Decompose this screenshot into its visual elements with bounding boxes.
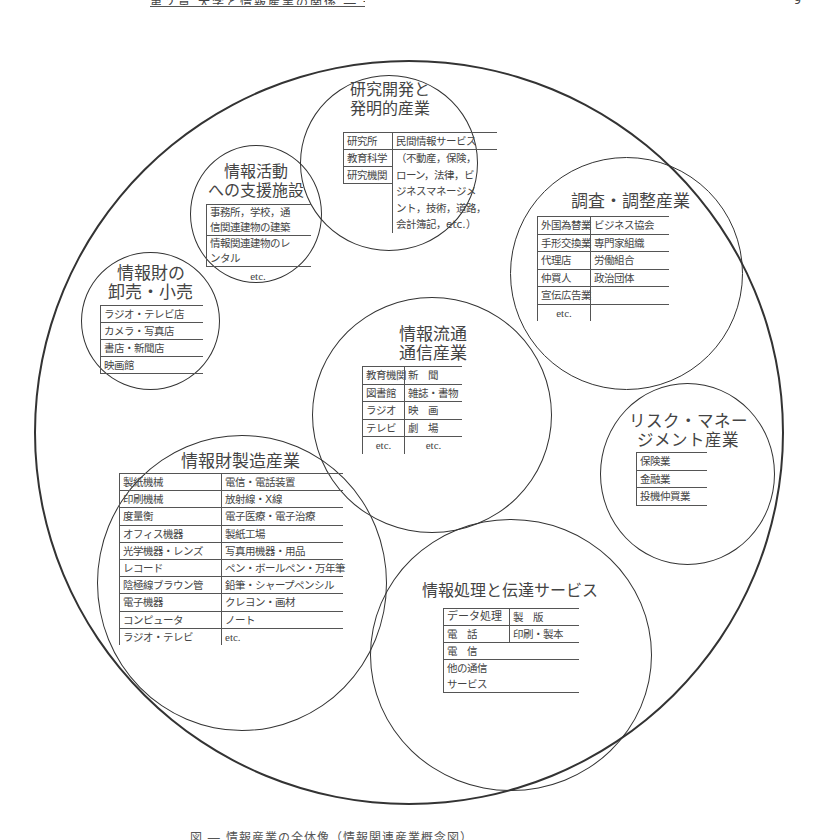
survey-cell bbox=[590, 287, 669, 304]
distribution-cell: テレビ bbox=[362, 420, 404, 437]
distribution-cell: ラジオ bbox=[362, 402, 404, 419]
support-title-line2: への支援施設 bbox=[195, 181, 317, 200]
research-title-line2: 発明的産業 bbox=[330, 99, 450, 118]
distribution-cell: 新 聞 bbox=[404, 367, 462, 384]
retail-cell: ラジオ・テレビ店 bbox=[100, 306, 203, 322]
survey-title: 調査・調整産業 bbox=[540, 192, 720, 211]
manufacturing-cell: クレヨン・画材 bbox=[221, 594, 333, 610]
research-left-cell: 研究所 bbox=[343, 133, 392, 149]
risk-cell: 保険業 bbox=[636, 453, 707, 470]
survey-cell: 外国為替業 bbox=[537, 217, 590, 234]
survey-cell: 政治団体 bbox=[590, 270, 669, 287]
manufacturing-table: 製紙機械電信・電話装置 印刷機械放射線・X線 度量衡電子医療・電子治療 オフィス… bbox=[119, 473, 343, 645]
manufacturing-cell: レコード bbox=[119, 560, 221, 576]
manufacturing-cell: オフィス機器 bbox=[119, 526, 221, 542]
support-title-line1: 情報活動 bbox=[195, 162, 317, 181]
manufacturing-cell: 印刷機械 bbox=[119, 491, 221, 507]
processing-cell: 電 話 bbox=[443, 626, 509, 642]
processing-cell: 印刷・製本 bbox=[509, 626, 578, 642]
research-right-line: （不動産，保険， bbox=[396, 150, 497, 167]
page-number: 9 bbox=[794, 0, 801, 7]
distribution-etc: etc. bbox=[362, 437, 404, 454]
manufacturing-cell: ペン・ボールペン・万年筆 bbox=[221, 560, 343, 576]
manufacturing-cell: 鉛筆・シャープペンシル bbox=[221, 577, 343, 593]
research-table-left: 研究所 教育科学 研究機関 bbox=[343, 132, 392, 184]
figure-caption: 図 ― 情報産業の全体像（情報関連産業概念図） bbox=[190, 828, 650, 840]
research-table-right: 民間情報サービス （不動産，保険， ローン，法律，ビ ジネスマネージメ ント，技… bbox=[392, 132, 497, 233]
survey-cell: 宣伝広告業 bbox=[537, 287, 590, 304]
manufacturing-cell: 光学機器・レンズ bbox=[119, 543, 221, 559]
research-right-line: ジネスマネージメ bbox=[396, 183, 497, 200]
risk-table: 保険業 金融業 投機仲買業 bbox=[636, 452, 707, 506]
research-left-cell: 研究機関 bbox=[343, 167, 392, 183]
research-title-line1: 研究開発と bbox=[330, 80, 450, 99]
distribution-title-line2: 通信産業 bbox=[370, 344, 495, 363]
survey-cell: 労働組合 bbox=[590, 252, 669, 269]
header-caption: 第２章 大学と情報産業の関係 ― 一覧 bbox=[150, 0, 365, 5]
survey-cell bbox=[590, 305, 669, 322]
risk-title: リスク・マネー ジメント産業 bbox=[613, 412, 763, 450]
survey-cell: 代理店 bbox=[537, 252, 590, 269]
manufacturing-cell: ノート bbox=[221, 612, 326, 628]
retail-cell: 書店・新聞店 bbox=[100, 340, 198, 356]
survey-cell: 専門家組織 bbox=[590, 235, 669, 252]
processing-cell: データ処理 bbox=[443, 609, 509, 625]
processing-cell: 製 版 bbox=[509, 609, 574, 625]
distribution-cell: 劇 場 bbox=[404, 420, 462, 437]
manufacturing-title: 情報財製造産業 bbox=[160, 452, 320, 471]
survey-cell: ビジネス協会 bbox=[590, 217, 669, 234]
manufacturing-cell: 電子医療・電子治療 bbox=[221, 508, 337, 524]
processing-cell: 電 信 bbox=[443, 643, 578, 659]
survey-cell: 手形交換業 bbox=[537, 235, 590, 252]
distribution-cell: 図書館 bbox=[362, 385, 404, 402]
support-title: 情報活動 への支援施設 bbox=[195, 162, 317, 200]
processing-table: データ処理製 版 電 話印刷・製本 電 信 他の通信 サービス bbox=[443, 608, 579, 693]
support-row1-line2: 信関連建物の建築 bbox=[210, 220, 311, 235]
distribution-cell: 映 画 bbox=[404, 402, 462, 419]
processing-other-line2: サービス bbox=[447, 676, 579, 692]
distribution-cell: 教育機関 bbox=[362, 367, 404, 384]
survey-cell: 仲買人 bbox=[537, 270, 590, 287]
retail-cell: 映画館 bbox=[100, 357, 180, 373]
manufacturing-cell: 電信・電話装置 bbox=[221, 474, 323, 490]
retail-title-line2: 卸売・小売 bbox=[88, 283, 213, 302]
survey-table: 外国為替業ビジネス協会 手形交換業専門家組織 代理店労働組合 仲買人政治団体 宣… bbox=[537, 216, 669, 321]
processing-other-line1: 他の通信 bbox=[447, 660, 579, 676]
research-right-line: ント，技術，道路， bbox=[396, 200, 497, 217]
manufacturing-cell: 製紙工場 bbox=[221, 526, 337, 542]
distribution-title-line1: 情報流通 bbox=[370, 325, 495, 344]
distribution-cell: 雑誌・書物 bbox=[404, 385, 462, 402]
retail-title: 情報財の 卸売・小売 bbox=[88, 264, 213, 302]
distribution-table: 教育機関新 聞 図書館雑誌・書物 ラジオ映 画 テレビ劇 場 etc.etc. bbox=[362, 366, 462, 454]
research-right-line: ローン，法律，ビ bbox=[396, 167, 497, 184]
support-table: 事務所，学校，通 信関連建物の建築 情報関連建物のレ ンタル etc. bbox=[206, 204, 311, 284]
risk-title-line1: リスク・マネー bbox=[613, 412, 763, 431]
retail-table: ラジオ・テレビ店 カメラ・写真店 書店・新聞店 映画館 bbox=[100, 305, 203, 374]
support-row2-line1: 情報関連建物のレ bbox=[210, 236, 311, 251]
retail-title-line1: 情報財の bbox=[88, 264, 213, 283]
manufacturing-cell: 陰極線ブラウン管 bbox=[119, 577, 221, 593]
risk-cell: 金融業 bbox=[636, 471, 707, 488]
support-row2-line2: ンタル bbox=[210, 251, 311, 266]
distribution-etc: etc. bbox=[404, 437, 462, 454]
manufacturing-cell: 写真用機器・用品 bbox=[221, 543, 343, 559]
manufacturing-cell: 放射線・X線 bbox=[221, 491, 323, 507]
distribution-title: 情報流通 通信産業 bbox=[370, 325, 495, 363]
research-right-line: 会計簿記，etc.） bbox=[396, 216, 497, 233]
support-row1-line1: 事務所，学校，通 bbox=[210, 205, 311, 220]
header-underline bbox=[150, 6, 365, 7]
manufacturing-cell: ラジオ・テレビ bbox=[119, 629, 221, 645]
research-title: 研究開発と 発明的産業 bbox=[330, 80, 450, 118]
manufacturing-etc: etc. bbox=[221, 629, 281, 645]
retail-cell: カメラ・写真店 bbox=[100, 323, 203, 339]
research-left-cell: 教育科学 bbox=[343, 150, 392, 166]
manufacturing-cell: 度量衡 bbox=[119, 508, 221, 524]
manufacturing-cell: 製紙機械 bbox=[119, 474, 221, 490]
risk-cell: 投機仲買業 bbox=[636, 488, 707, 505]
manufacturing-cell: コンピュータ bbox=[119, 612, 221, 628]
processing-title: 情報処理と伝達サービス bbox=[410, 581, 610, 600]
research-right-cell: 民間情報サービス bbox=[392, 133, 497, 149]
manufacturing-cell: 電子機器 bbox=[119, 594, 221, 610]
risk-title-line2: ジメント産業 bbox=[613, 431, 763, 450]
support-etc: etc. bbox=[206, 267, 310, 284]
